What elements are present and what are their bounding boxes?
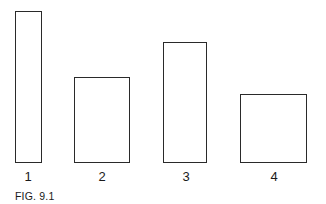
rectangle-2-label: 2 (92, 170, 112, 184)
rectangle-4 (240, 94, 307, 163)
rectangle-3-label: 3 (176, 170, 196, 184)
rectangle-1 (15, 11, 42, 163)
rectangle-4-label: 4 (264, 170, 284, 184)
rectangle-2 (74, 77, 130, 163)
figure-caption: FIG. 9.1 (15, 190, 55, 202)
rectangle-3 (163, 42, 207, 163)
rectangle-1-label: 1 (18, 170, 38, 184)
